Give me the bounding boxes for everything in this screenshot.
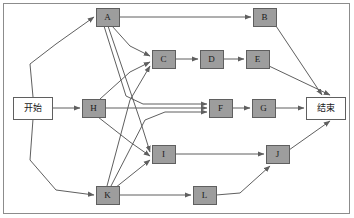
node-label-end: 结束 bbox=[317, 102, 335, 113]
node-L[interactable]: L bbox=[194, 187, 217, 205]
node-label-J: J bbox=[276, 149, 280, 159]
node-label-B: B bbox=[261, 12, 267, 22]
node-label-F: F bbox=[218, 103, 223, 113]
node-label-C: C bbox=[160, 54, 166, 64]
node-start[interactable]: 开始 bbox=[14, 98, 53, 120]
node-A[interactable]: A bbox=[97, 9, 120, 27]
node-D[interactable]: D bbox=[201, 51, 224, 69]
node-I[interactable]: I bbox=[153, 146, 176, 164]
node-end[interactable]: 结束 bbox=[307, 98, 346, 120]
node-B[interactable]: B bbox=[254, 9, 277, 27]
graph-svg: 开始ABCDEHFG结束IJKL bbox=[0, 0, 354, 218]
node-label-G: G bbox=[260, 103, 267, 113]
node-G[interactable]: G bbox=[253, 100, 276, 118]
node-H[interactable]: H bbox=[83, 100, 106, 118]
node-label-I: I bbox=[162, 149, 165, 159]
node-E[interactable]: E bbox=[247, 51, 270, 69]
diagram-canvas: 开始ABCDEHFG结束IJKL bbox=[0, 0, 354, 218]
node-J[interactable]: J bbox=[267, 146, 290, 164]
node-C[interactable]: C bbox=[153, 51, 176, 69]
node-label-start: 开始 bbox=[24, 102, 42, 113]
node-F[interactable]: F bbox=[210, 100, 233, 118]
node-label-D: D bbox=[208, 54, 215, 64]
node-label-L: L bbox=[202, 190, 208, 200]
node-label-H: H bbox=[90, 103, 97, 113]
node-label-K: K bbox=[104, 190, 111, 200]
node-label-A: A bbox=[104, 12, 111, 22]
node-label-E: E bbox=[255, 54, 261, 64]
node-K[interactable]: K bbox=[97, 187, 120, 205]
